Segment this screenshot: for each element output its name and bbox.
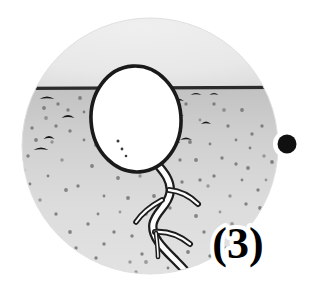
soil-speckle [246, 166, 250, 170]
soil-speckle [66, 108, 69, 111]
soil-speckle [103, 195, 106, 198]
soil-speckle [152, 194, 156, 198]
soil-speckle [250, 132, 253, 135]
soil-speckle [54, 124, 57, 127]
germination-figure: (3) (3) [0, 0, 310, 298]
soil-speckle [60, 158, 63, 161]
soil-speckle [240, 108, 244, 112]
soil-speckle [265, 179, 268, 182]
soil-speckle [94, 256, 97, 259]
soil-speckle [83, 111, 86, 114]
soil-speckle [184, 274, 188, 278]
soil-speckle [128, 260, 131, 263]
soil-speckle [29, 183, 32, 186]
soil-speckle [116, 176, 120, 180]
soil-speckle [138, 174, 141, 177]
soil-speckle [220, 156, 223, 159]
soil-speckle [167, 267, 170, 270]
soil-speckle [54, 212, 57, 215]
soil-speckle [97, 213, 100, 216]
soil-speckle [30, 126, 33, 129]
bullet-marker-group [273, 130, 301, 158]
soil-speckle [140, 252, 143, 255]
soil-speckle [84, 266, 87, 269]
soil-speckle [244, 202, 247, 205]
soil-speckle [126, 196, 130, 200]
soil-speckle [112, 230, 115, 233]
soil-speckle [234, 162, 237, 165]
soil-speckle [36, 246, 40, 250]
soil-speckle [24, 198, 27, 201]
soil-speckle [90, 164, 94, 168]
soil-speckle [68, 129, 71, 132]
soil-speckle [32, 212, 35, 215]
stage-caption: (3) [212, 219, 263, 268]
soil-speckle [208, 254, 211, 257]
soil-speckle [219, 211, 222, 214]
soil-speckle [212, 174, 215, 177]
soil-speckle [209, 143, 212, 146]
soil-speckle [228, 194, 231, 197]
soil-speckle [241, 179, 244, 182]
soil-speckle [194, 214, 198, 218]
soil-speckle [130, 234, 133, 237]
soil-speckle [64, 188, 68, 192]
soil-speckle [119, 211, 122, 214]
soil-speckle [47, 175, 50, 178]
soil-speckle [204, 268, 207, 271]
soil-speckle [122, 284, 125, 287]
soil-speckle [78, 96, 82, 100]
soil-speckle [110, 270, 114, 274]
soil-speckle [49, 257, 52, 260]
soil-speckle [270, 160, 274, 164]
soil-speckle [262, 154, 265, 157]
soil-speckle [249, 147, 252, 150]
soil-speckle [144, 260, 148, 264]
soil-speckle [194, 158, 198, 162]
soil-speckle [148, 276, 151, 279]
soil-speckle [184, 102, 187, 105]
soil-speckle [180, 180, 183, 183]
soil-speckle [76, 184, 79, 187]
soil-speckle [50, 140, 53, 143]
soil-speckle [186, 250, 190, 254]
soil-speckle [202, 230, 205, 233]
soil-speckle [102, 242, 105, 245]
soil-speckle [42, 106, 46, 110]
soil-speckle [199, 119, 202, 122]
soil-speckle [188, 140, 192, 144]
stage-caption-group: (3) (3) [212, 219, 263, 268]
soil-speckle [226, 124, 229, 127]
soil-speckle [256, 188, 259, 191]
soil-speckle [38, 198, 41, 201]
soil-speckle [59, 245, 62, 248]
soil-speckle [86, 222, 89, 225]
soil-speckle [42, 230, 46, 234]
soil-speckle [198, 178, 201, 181]
soil-speckle [212, 102, 215, 105]
bullet-dot-icon [278, 135, 297, 154]
soil-speckle [68, 230, 72, 234]
soil-speckle [66, 270, 69, 273]
soil-speckle [206, 184, 209, 187]
soil-speckle [178, 158, 181, 161]
figure-root: (3) (3) [0, 0, 310, 298]
soil-speckle [235, 139, 238, 142]
soil-speckle [34, 138, 38, 142]
soil-speckle [83, 139, 86, 142]
soil-speckle [56, 102, 59, 105]
soil-speckle [26, 154, 29, 157]
soil-speckle [102, 278, 106, 282]
soil-speckle [260, 124, 263, 127]
soil-speckle [222, 108, 226, 112]
soil-speckle [44, 116, 48, 120]
